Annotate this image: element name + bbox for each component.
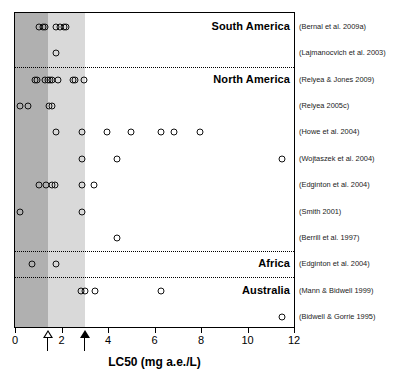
- open-arrow-stem: [47, 338, 48, 351]
- x-tick: [248, 328, 249, 333]
- group-separator: [15, 251, 294, 252]
- filled-arrow-stem: [84, 338, 85, 351]
- citation-label: (Edginton et al. 2004): [299, 180, 370, 189]
- filled-arrow-head: [80, 330, 90, 338]
- citation-label: (Lajmanocvich et al. 2003): [299, 48, 386, 57]
- data-point: [79, 208, 86, 215]
- data-point: [196, 129, 203, 136]
- data-point: [55, 76, 62, 83]
- data-point: [79, 182, 86, 189]
- data-point: [79, 155, 86, 162]
- data-point: [81, 287, 88, 294]
- citation-label: (Bernal et al. 2009a): [299, 22, 366, 31]
- data-point: [171, 129, 178, 136]
- x-axis-label: LC50 (mg a.e./L): [14, 355, 295, 369]
- data-point: [24, 103, 31, 110]
- data-point: [114, 155, 121, 162]
- x-tick: [155, 328, 156, 333]
- data-point: [92, 287, 99, 294]
- citation-label: (Relyea 2005c): [299, 101, 349, 110]
- data-point: [52, 129, 59, 136]
- x-tick-label: 8: [198, 334, 204, 346]
- chart-figure: South AmericaNorth AmericaAfricaAustrali…: [0, 0, 406, 379]
- data-point: [158, 129, 165, 136]
- citation-label: (Berrill et al. 1997): [299, 232, 359, 241]
- data-point: [49, 103, 56, 110]
- group-label-south-america: South America: [211, 20, 290, 32]
- data-point: [79, 129, 86, 136]
- group-label-africa: Africa: [258, 257, 290, 269]
- citation-label: (Relyea & Jones 2009): [299, 74, 374, 83]
- group-label-australia: Australia: [242, 284, 290, 296]
- data-point: [279, 155, 286, 162]
- open-arrow-head: [43, 330, 53, 338]
- shaded-band-dark: [15, 13, 48, 327]
- data-point: [63, 24, 70, 31]
- citation-label: (Howe et al. 2004): [299, 127, 359, 136]
- citation-labels: (Bernal et al. 2009a)(Lajmanocvich et al…: [299, 12, 406, 328]
- data-point: [103, 129, 110, 136]
- x-tick-label: 2: [58, 334, 64, 346]
- data-point: [52, 50, 59, 57]
- data-point: [52, 261, 59, 268]
- x-tick-label: 4: [105, 334, 111, 346]
- x-tick-label: 10: [241, 334, 253, 346]
- data-point: [91, 182, 98, 189]
- x-tick: [201, 328, 202, 333]
- citation-label: (Smith 2001): [299, 206, 341, 215]
- x-tick-label: 12: [288, 334, 300, 346]
- filled-arrow: [80, 330, 90, 351]
- data-point: [158, 287, 165, 294]
- data-point: [128, 129, 135, 136]
- group-separator: [15, 67, 294, 68]
- shaded-band-light: [48, 13, 85, 327]
- data-point: [29, 261, 36, 268]
- x-tick-label: 0: [12, 334, 18, 346]
- x-tick: [294, 328, 295, 333]
- citation-label: (Bidwell & Gorrie 1995): [299, 312, 375, 321]
- group-separator: [15, 277, 294, 278]
- open-arrow: [43, 330, 53, 351]
- data-point: [16, 208, 23, 215]
- data-point: [72, 76, 79, 83]
- plot-area: South AmericaNorth AmericaAfricaAustrali…: [14, 12, 295, 328]
- data-point: [80, 76, 87, 83]
- data-point: [36, 182, 43, 189]
- data-point: [279, 314, 286, 321]
- citation-label: (Mann & Bidwell 1999): [299, 285, 373, 294]
- x-tick: [62, 328, 63, 333]
- data-point: [16, 103, 23, 110]
- data-point: [34, 76, 41, 83]
- x-axis: 024681012: [14, 328, 295, 329]
- x-tick-label: 6: [151, 334, 157, 346]
- citation-label: (Wojtaszek et al. 2004): [299, 153, 374, 162]
- data-point: [51, 182, 58, 189]
- data-point: [42, 24, 49, 31]
- data-point: [114, 234, 121, 241]
- citation-label: (Edginton et al. 2004): [299, 259, 370, 268]
- x-tick: [15, 328, 16, 333]
- x-tick: [108, 328, 109, 333]
- group-label-north-america: North America: [213, 73, 290, 85]
